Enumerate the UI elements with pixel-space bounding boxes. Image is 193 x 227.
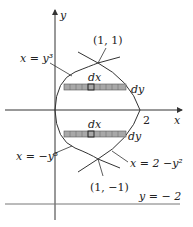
parabola-curve xyxy=(78,52,140,172)
curve-label-lower: x = −y³ xyxy=(16,150,58,163)
strip-top xyxy=(64,84,126,90)
curve-label-parabola: x = 2 −y² xyxy=(130,157,183,170)
line-label-y-minus-2: y = − 2 xyxy=(138,190,181,203)
dx-label-bottom: dx xyxy=(88,118,102,131)
leader-bottom-point xyxy=(98,159,103,176)
point-label-bottom: (1, −1) xyxy=(90,181,129,194)
x-axis-label: x xyxy=(174,114,181,127)
x-tick-2: 2 xyxy=(143,114,150,127)
leader-parabola xyxy=(112,151,128,162)
point-label-top: (1, 1) xyxy=(93,34,123,47)
region-diagram: y x 2 (1, 1) (1, −1) x = y³ x = −y³ x = … xyxy=(0,0,193,227)
curve-label-upper: x = y³ xyxy=(20,52,53,65)
dx-label-top: dx xyxy=(88,71,102,84)
dy-label-bottom: dy xyxy=(128,130,142,143)
dy-label-top: dy xyxy=(131,83,145,96)
strip-bottom xyxy=(64,131,126,137)
leader-upper-curve xyxy=(50,63,72,76)
y-axis-label: y xyxy=(59,9,67,22)
